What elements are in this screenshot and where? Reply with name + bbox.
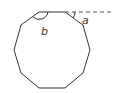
label-b: b — [41, 25, 48, 38]
decagon-diagram: b a — [0, 0, 118, 93]
decagon — [14, 12, 90, 88]
label-a: a — [82, 14, 89, 27]
interior-angle-arc — [33, 12, 48, 19]
exterior-angle-arc — [73, 12, 75, 18]
